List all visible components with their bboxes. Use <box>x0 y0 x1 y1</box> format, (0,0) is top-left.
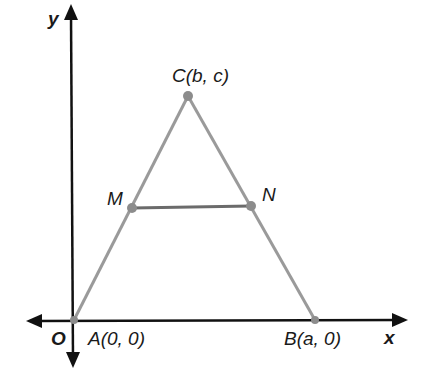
x-axis-label: x <box>384 328 395 347</box>
point-m <box>127 203 137 213</box>
point-a <box>70 316 78 324</box>
y-axis <box>71 14 73 360</box>
x-axis <box>35 320 400 321</box>
label-m: M <box>107 189 123 208</box>
label-a: A(0, 0) <box>88 329 145 348</box>
y-axis-down-arrow-icon <box>66 352 80 368</box>
point-n <box>246 201 256 211</box>
point-c <box>183 91 193 101</box>
origin-label: O <box>51 329 66 348</box>
label-c: C(b, c) <box>172 66 229 85</box>
axes <box>26 4 408 368</box>
x-axis-right-arrow-icon <box>392 313 408 327</box>
label-b: B(a, 0) <box>284 329 341 348</box>
segment-mn <box>132 206 251 208</box>
x-axis-left-arrow-icon <box>26 314 42 328</box>
y-axis-label: y <box>48 9 59 28</box>
label-n: N <box>262 185 276 204</box>
point-b <box>311 316 319 324</box>
y-axis-up-arrow-icon <box>64 4 78 20</box>
